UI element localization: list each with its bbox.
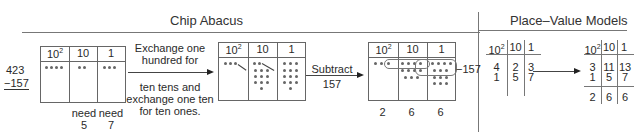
chip-abacus-initial: 102 10 1 xyxy=(40,46,126,103)
pv-result-cell: 6 xyxy=(601,92,617,102)
header-ones: 1 xyxy=(97,47,125,59)
pv-header-hundreds: 102 xyxy=(486,42,507,55)
exchange-text-5: for ten ones. xyxy=(128,105,212,117)
minuend: 423 xyxy=(6,64,24,76)
header-ones: 1 xyxy=(427,43,456,55)
need-tens-label: need xyxy=(70,107,98,119)
exchange-arrow xyxy=(128,72,208,73)
header-hundreds: 102 xyxy=(41,47,69,60)
header-hundreds: 102 xyxy=(219,43,248,56)
pv-cell: 7 xyxy=(526,72,536,82)
place-value-model-initial: 102 10 1 4 2 3 1 5 7 xyxy=(486,40,544,96)
pv-cell: 1 xyxy=(486,72,507,82)
pv-header-tens: 10 xyxy=(507,42,524,52)
chip-abacus-result: 102 10 1 xyxy=(368,42,456,101)
pv-cell: 1 xyxy=(584,72,601,82)
chip-abacus-exchanged: 102 10 1 xyxy=(218,42,306,101)
header-tens: 10 xyxy=(398,43,427,55)
subtract-label: −157 xyxy=(456,63,481,75)
arrow-head-icon xyxy=(357,72,364,78)
header-tens: 10 xyxy=(69,47,97,59)
need-ones-label: need xyxy=(97,107,125,119)
place-value-rule xyxy=(479,30,627,31)
header-tens: 10 xyxy=(248,43,277,55)
pv-cell: 7 xyxy=(617,72,633,82)
result-hundreds: 2 xyxy=(368,106,397,118)
header-ones: 1 xyxy=(277,43,306,55)
subtract-text-1: Subtract xyxy=(308,63,356,75)
pv-result-cell: 6 xyxy=(617,92,633,102)
result-tens: 6 xyxy=(397,106,426,118)
place-value-arrow xyxy=(533,71,575,72)
pv-header-tens: 10 xyxy=(601,42,617,52)
pv-header-ones: 1 xyxy=(618,42,630,52)
exchange-text-4: exchange one ten xyxy=(124,93,216,105)
header-hundreds: 102 xyxy=(369,43,398,56)
chip-abacus-title: Chip Abacus xyxy=(170,13,243,28)
subtract-arrow xyxy=(306,75,358,76)
pv-cell: 5 xyxy=(601,72,617,82)
pv-result-cell: 2 xyxy=(584,92,601,102)
need-tens-value: 5 xyxy=(70,119,98,131)
pv-header-hundreds: 102 xyxy=(584,42,601,55)
chip-abacus-rule xyxy=(22,32,480,33)
place-value-title: Place–Value Models xyxy=(510,13,628,28)
arrow-head-icon xyxy=(207,69,214,75)
exchange-text-1: Exchange one xyxy=(128,42,212,54)
subtract-text-2: 157 xyxy=(308,78,356,90)
exchange-text-2: hundred for xyxy=(128,54,212,66)
removal-ring xyxy=(415,59,457,76)
pv-cell: 5 xyxy=(507,72,524,82)
place-value-model-result: 102 10 1 3 11 13 1 5 7 2 6 6 xyxy=(584,40,634,104)
pv-header-ones: 1 xyxy=(526,42,536,52)
exchange-text-3: ten tens and xyxy=(128,81,212,93)
result-ones: 6 xyxy=(426,106,455,118)
subtrahend: −157 xyxy=(4,77,29,90)
need-ones-value: 7 xyxy=(97,119,125,131)
arrow-head-icon xyxy=(574,68,581,74)
